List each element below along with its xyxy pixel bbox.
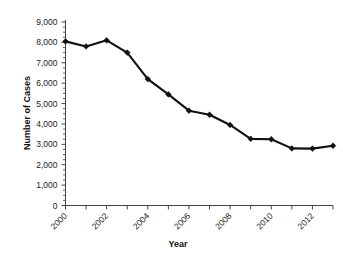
y-axis-title: Number of Cases [22,76,32,150]
y-tick-label: 2,000 [36,160,58,170]
y-tick-label: 0 [53,201,58,211]
y-tick-label: 8,000 [36,37,58,47]
y-tick-label: 3,000 [36,139,58,149]
y-tick-label: 7,000 [36,58,58,68]
chart-figure: Number of Cases Year 01,0002,0003,0004,0… [0,0,343,263]
x-axis-title-group: Year [168,239,188,249]
line-chart: Number of Cases Year 01,0002,0003,0004,0… [0,0,343,263]
y-tick-label: 4,000 [36,119,58,129]
y-tick-label: 5,000 [36,99,58,109]
y-tick-label: 9,000 [36,17,58,27]
x-axis-title: Year [168,239,188,249]
y-tick-label: 1,000 [36,180,58,190]
y-tick-label: 6,000 [36,78,58,88]
y-axis-title-group: Number of Cases [22,76,32,150]
